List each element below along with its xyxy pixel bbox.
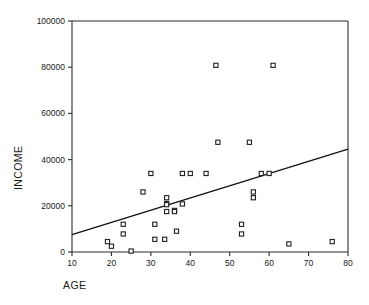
chart-canvas: 020000400006000080000100000 102030405060…: [0, 0, 369, 305]
x-tick-label: 80: [343, 258, 353, 268]
data-point: [251, 190, 255, 194]
scatter-chart: 020000400006000080000100000 102030405060…: [0, 0, 369, 305]
data-point: [165, 196, 169, 200]
data-point: [267, 171, 271, 175]
y-tick-label: 0: [60, 247, 65, 257]
data-point: [165, 203, 169, 207]
data-point: [239, 222, 243, 226]
data-point: [247, 140, 251, 144]
y-tick-label: 100000: [37, 16, 66, 26]
chart-background: [0, 0, 369, 305]
y-tick-label: 20000: [41, 201, 65, 211]
data-point: [259, 171, 263, 175]
x-tick-label: 10: [67, 258, 77, 268]
data-point: [121, 232, 125, 236]
data-point: [216, 140, 220, 144]
data-point: [239, 232, 243, 236]
data-point: [141, 190, 145, 194]
x-tick-label: 50: [225, 258, 235, 268]
x-tick-label: 20: [107, 258, 117, 268]
data-point: [153, 237, 157, 241]
data-point: [153, 222, 157, 226]
data-point: [172, 209, 176, 213]
data-point: [214, 63, 218, 67]
y-tick-label: 40000: [41, 155, 65, 165]
data-point: [271, 63, 275, 67]
y-tick-label: 80000: [41, 62, 65, 72]
data-point: [188, 171, 192, 175]
x-axis-title: AGE: [63, 279, 86, 291]
data-point: [251, 196, 255, 200]
y-axis-title: INCOME: [12, 146, 24, 190]
data-point: [287, 242, 291, 246]
data-point: [121, 222, 125, 226]
data-point: [105, 240, 109, 244]
data-point: [163, 237, 167, 241]
data-point: [165, 209, 169, 213]
data-point: [109, 244, 113, 248]
data-point: [204, 171, 208, 175]
x-tick-label: 30: [146, 258, 156, 268]
data-point: [149, 171, 153, 175]
x-tick-label: 60: [264, 258, 274, 268]
x-tick-label: 40: [186, 258, 196, 268]
data-point: [180, 202, 184, 206]
data-point: [174, 229, 178, 233]
data-point: [129, 249, 133, 253]
data-point: [330, 240, 334, 244]
x-tick-label: 70: [304, 258, 314, 268]
y-tick-label: 60000: [41, 108, 65, 118]
data-point: [180, 171, 184, 175]
